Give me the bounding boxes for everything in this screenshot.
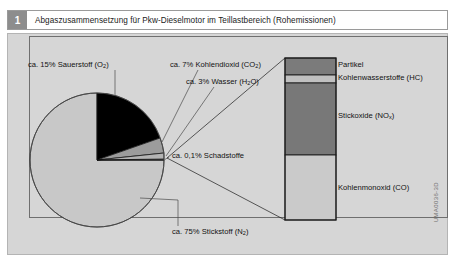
label-nitrogen-end: )	[246, 227, 249, 236]
figure-number-badge: 1	[8, 11, 27, 29]
label-water: ca. 3% Wasser (H2O)	[186, 78, 259, 87]
label-oxygen-end: )	[106, 60, 109, 69]
label-nitrogen-oxides: Stickoxide (NOx)	[338, 112, 394, 121]
label-nox-end: )	[392, 111, 395, 120]
figure-root: 1 Abgaszusammensetzung für Pkw-Dieselmot…	[0, 0, 455, 278]
label-pollutants: ca. 0,1% Schadstoffe	[172, 152, 244, 160]
label-particles: Partikel	[338, 61, 363, 69]
source-watermark: UMA0036-3D	[433, 182, 439, 222]
label-hydrocarbons: Kohlenwasserstoffe (HC)	[338, 74, 423, 82]
label-nitrogen: ca. 75% Stickstoff (N2)	[172, 228, 248, 237]
label-water-text: ca. 3% Wasser (H	[186, 77, 247, 86]
figure-caption: Abgaszusammensetzung für Pkw-Dieselmotor…	[27, 11, 447, 29]
figure-header: 1 Abgaszusammensetzung für Pkw-Dieselmot…	[7, 10, 448, 30]
label-nitrogen-text: ca. 75% Stickstoff (N	[172, 227, 243, 236]
label-carbon-monoxide: Kohlenmonoxid (CO)	[338, 184, 409, 192]
label-oxygen-text: ca. 15% Sauerstoff (O	[28, 60, 103, 69]
label-co2: ca. 7% Kohlendioxid (CO2)	[170, 61, 261, 70]
label-co2-text: ca. 7% Kohlendioxid (CO	[170, 60, 255, 69]
label-nox-text: Stickoxide (NO	[338, 111, 389, 120]
label-water-end: O)	[250, 77, 258, 86]
label-oxygen: ca. 15% Sauerstoff (O2)	[28, 61, 109, 70]
label-co2-end: )	[258, 60, 261, 69]
